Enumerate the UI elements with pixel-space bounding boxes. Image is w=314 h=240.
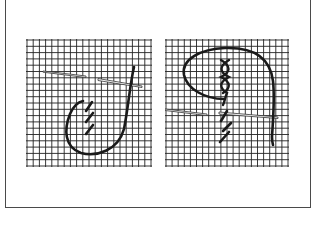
left-stitch-panel xyxy=(26,39,152,168)
fabric-grid xyxy=(165,39,289,167)
fabric-grid xyxy=(26,39,152,167)
left-grid-diagram xyxy=(26,39,152,168)
needle-icon xyxy=(165,109,278,119)
right-grid-diagram xyxy=(165,39,289,168)
right-stitch-panel xyxy=(165,39,289,168)
figure-caption: … xyxy=(40,212,310,218)
chain-stitches xyxy=(86,102,93,134)
